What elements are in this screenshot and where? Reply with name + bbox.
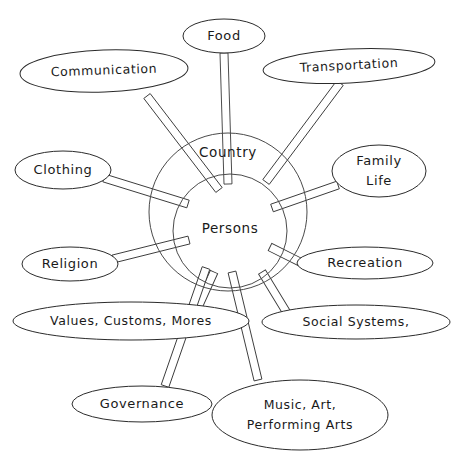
node-recreation[interactable]: Recreation: [297, 247, 433, 279]
node-transportation[interactable]: Transportation: [262, 45, 436, 88]
node-social-systems[interactable]: Social Systems,: [262, 305, 450, 339]
node-label-family-life: Family: [356, 153, 401, 168]
diagram-canvas: Country Persons FoodCommunicationTranspo…: [0, 0, 458, 458]
node-label-recreation: Recreation: [327, 255, 403, 270]
node-label-religion: Religion: [42, 256, 99, 271]
outer-ring-label: Country: [199, 144, 257, 160]
node-label-clothing: Clothing: [34, 162, 93, 177]
node-label-music-art-performing-arts: Performing Arts: [247, 417, 353, 432]
node-religion[interactable]: Religion: [22, 247, 118, 281]
node-label-family-life: Life: [366, 173, 392, 188]
node-label-values-customs-mores: Values, Customs, Mores: [50, 313, 212, 328]
node-family-life[interactable]: FamilyLife: [332, 145, 426, 197]
node-clothing[interactable]: Clothing: [15, 151, 111, 189]
spoke-food: [220, 53, 232, 184]
node-communication[interactable]: Communication: [19, 47, 188, 95]
node-food[interactable]: Food: [183, 19, 265, 53]
radial-diagram: Country Persons FoodCommunicationTranspo…: [0, 0, 458, 458]
node-label-music-art-performing-arts: Music, Art,: [264, 397, 337, 412]
node-values-customs-mores[interactable]: Values, Customs, Mores: [13, 302, 249, 340]
inner-ring-label: Persons: [202, 220, 259, 236]
node-label-social-systems: Social Systems,: [302, 314, 409, 329]
spoke-transportation: [263, 81, 343, 185]
node-label-governance: Governance: [100, 396, 184, 411]
node-music-art-performing-arts[interactable]: Music, Art,Performing Arts: [212, 380, 388, 450]
spoke-religion: [112, 236, 190, 263]
node-governance[interactable]: Governance: [72, 386, 212, 422]
node-label-food: Food: [207, 28, 241, 43]
node-ellipse-music-art-performing-arts[interactable]: [212, 380, 388, 450]
spoke-clothing: [103, 174, 189, 208]
